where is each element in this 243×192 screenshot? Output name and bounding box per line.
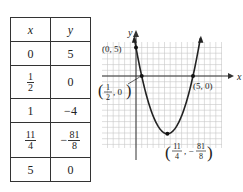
- paren-open: (: [165, 143, 171, 162]
- point-marker: [191, 74, 195, 78]
- paren-open: (: [98, 82, 103, 100]
- frac-den: 2: [106, 93, 110, 102]
- frac-num: 11: [173, 142, 181, 151]
- point-marker: [140, 74, 144, 78]
- paren-close: ): [126, 82, 131, 100]
- x-axis-arrow-icon: [228, 73, 234, 79]
- frac-den: 4: [175, 152, 179, 161]
- curve-arrow-icon: [198, 36, 204, 43]
- parabola-curve: [134, 38, 200, 134]
- y-axis-label: y: [127, 27, 133, 38]
- y-axis-arrow-icon: [133, 30, 139, 37]
- label-rest: , 0: [113, 87, 123, 97]
- label-sep: , −: [184, 146, 194, 156]
- x-axis-label: x: [236, 71, 242, 82]
- axes: xy: [102, 27, 242, 160]
- paren-close: ): [207, 143, 213, 162]
- point-marker: [165, 132, 169, 136]
- frac-den: 8: [199, 152, 203, 161]
- parabola-graph: xy (0, 5)(5, 0)(12, 0)(114, −818): [0, 0, 243, 192]
- label-point-5-0: (5, 0): [193, 81, 213, 91]
- label-point-0-5: (0, 5): [102, 44, 122, 54]
- point-marker: [134, 46, 138, 50]
- leader-line: [128, 77, 140, 84]
- frac-num: 81: [197, 142, 205, 151]
- frac-num: 1: [106, 83, 110, 92]
